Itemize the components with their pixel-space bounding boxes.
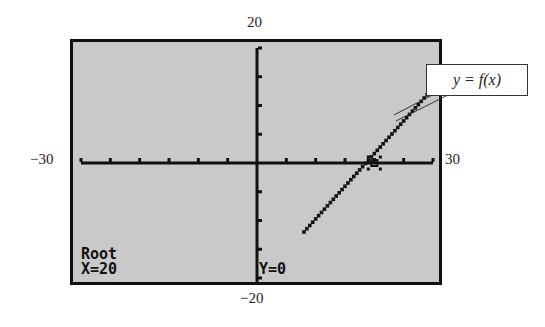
graph-point [358,168,362,172]
graph-point [381,142,385,146]
graph-point [308,224,312,228]
x-tick [80,158,83,162]
y-tick [258,47,262,50]
y-readout: Y=0 [259,262,286,277]
graph-point [334,194,338,198]
x-tick [285,158,288,162]
graph-point [340,188,344,192]
xmin-label: −30 [30,151,53,168]
graph-point [361,165,365,169]
y-tick [258,104,262,107]
graph-point [384,139,388,143]
graph-point [411,109,415,113]
graph-point [370,155,374,159]
graph-point [393,129,397,133]
calculator-screen: Root X=20 Y=0 [70,39,442,285]
graph-point [405,116,409,120]
graph-point [414,106,418,110]
x-tick [138,158,141,162]
graph-point [387,135,391,139]
graph-point [331,198,335,202]
graph-point [326,204,330,208]
graph-point [417,103,421,107]
ymin-label: −20 [240,290,263,307]
graph-point [329,201,333,205]
x-tick [226,158,229,162]
ymax-label: 20 [247,14,262,31]
graph-point [390,132,394,136]
graph-plot [73,42,439,282]
x-tick [432,158,435,162]
x-tick [197,158,200,162]
graph-point [402,119,406,123]
graph-point [378,145,382,149]
graph-point [320,211,324,215]
graph-point [408,113,412,117]
x-tick [314,158,317,162]
graph-point [317,214,321,218]
graph-point [346,181,350,185]
graph-point [373,152,377,156]
x-tick [344,158,347,162]
x-readout: X=20 [81,262,117,277]
y-tick [258,75,262,78]
graph-point [337,191,341,195]
y-tick [258,133,262,136]
graph-point [355,171,359,175]
graph-point [349,178,353,182]
graph-point [375,149,379,153]
y-tick [258,248,262,251]
graph-point [305,227,309,231]
y-tick [258,190,262,193]
graph-point [367,158,371,162]
x-tick [402,158,405,162]
graph-point [314,217,318,221]
graph-point [419,100,423,104]
graph-point [343,184,347,188]
graph-point [399,122,403,126]
function-callout: y = f(x) [426,64,528,96]
graph-point [323,207,327,211]
graph-point [396,126,400,130]
graph-point [422,96,426,100]
graph-point [302,230,306,234]
x-tick [109,158,112,162]
graph-point [311,220,315,224]
graph-point [352,175,356,179]
graph-point [364,162,368,166]
y-tick [258,219,262,222]
x-tick [168,158,171,162]
xmax-label: 30 [445,151,460,168]
